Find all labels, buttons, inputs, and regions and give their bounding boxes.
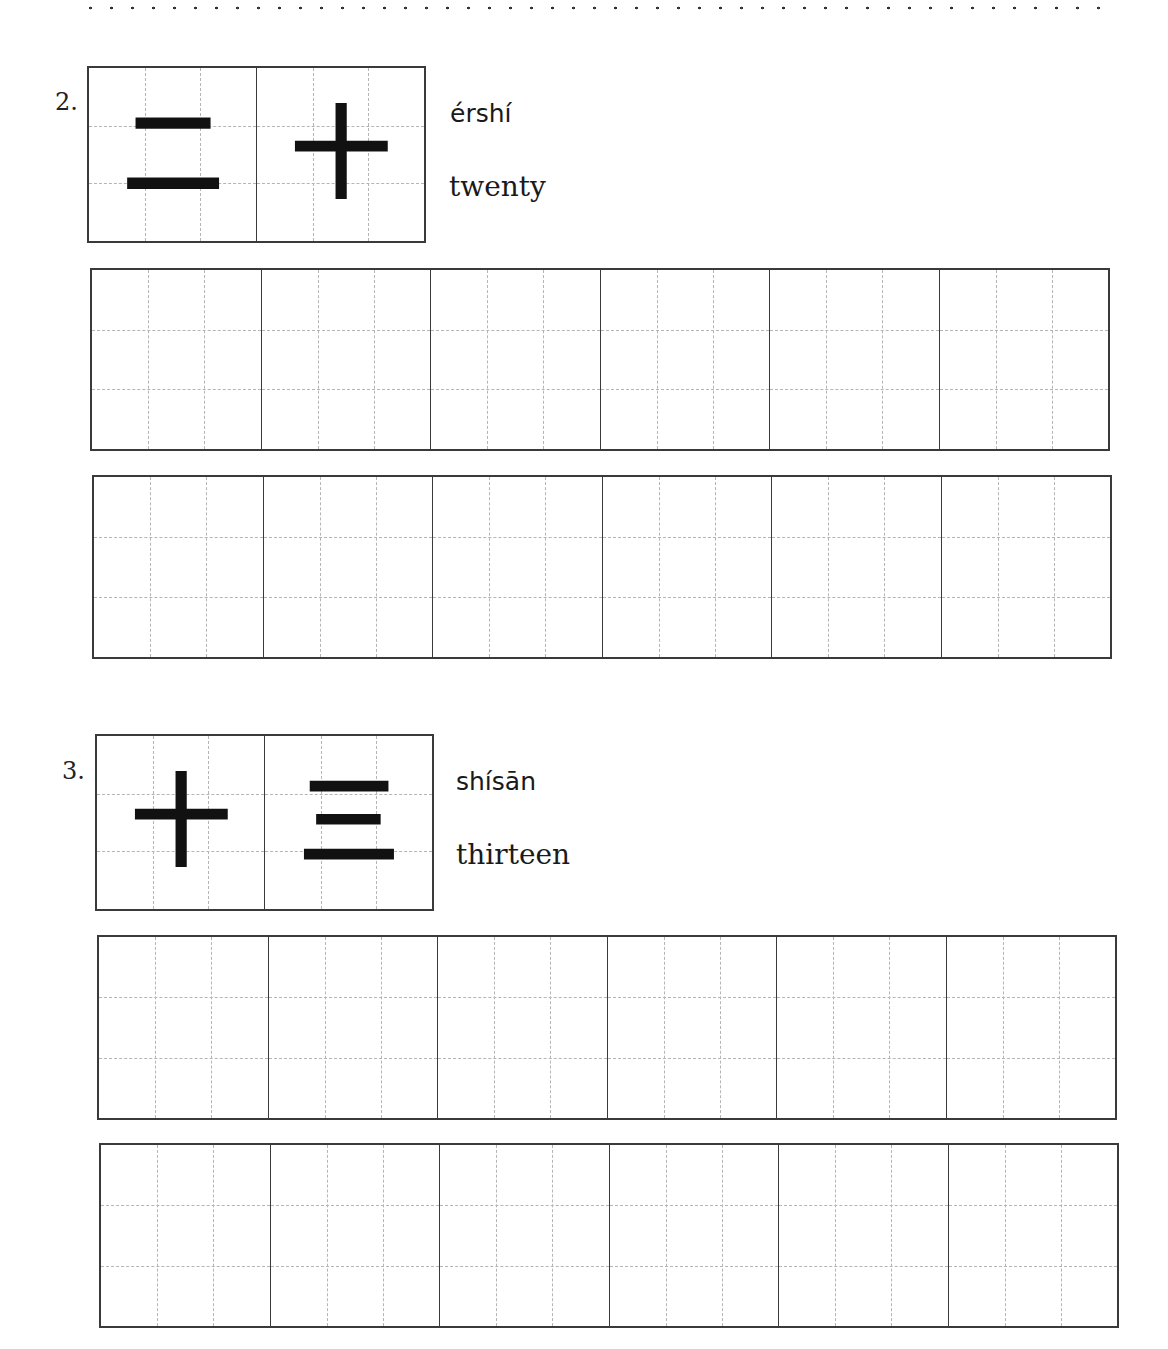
practice-cell[interactable] bbox=[270, 1145, 440, 1326]
practice-cell[interactable] bbox=[437, 937, 607, 1118]
practice-cell[interactable] bbox=[600, 270, 770, 449]
model-cell: 三 bbox=[264, 736, 432, 909]
practice-cell[interactable] bbox=[939, 270, 1109, 449]
model-character-box: 二 十 bbox=[87, 66, 426, 243]
practice-row bbox=[92, 475, 1112, 659]
model-character-box: 十 三 bbox=[95, 734, 434, 911]
practice-cell[interactable] bbox=[769, 270, 939, 449]
pinyin-label: shísān bbox=[456, 767, 536, 796]
practice-cell[interactable] bbox=[609, 1145, 779, 1326]
practice-cell[interactable] bbox=[439, 1145, 609, 1326]
practice-cell[interactable] bbox=[776, 937, 946, 1118]
model-character: 十 bbox=[257, 68, 424, 241]
practice-cell[interactable] bbox=[607, 937, 777, 1118]
english-meaning: twenty bbox=[449, 170, 546, 203]
practice-cell[interactable] bbox=[430, 270, 600, 449]
practice-cell[interactable] bbox=[946, 937, 1116, 1118]
practice-cell[interactable] bbox=[941, 477, 1111, 657]
practice-cell[interactable] bbox=[92, 270, 261, 449]
practice-cell[interactable] bbox=[99, 937, 268, 1118]
model-cell: 二 bbox=[89, 68, 256, 241]
item-number: 3. bbox=[62, 757, 85, 785]
practice-cell[interactable] bbox=[948, 1145, 1118, 1326]
practice-cell[interactable] bbox=[778, 1145, 948, 1326]
practice-row bbox=[99, 1143, 1119, 1328]
practice-cell[interactable] bbox=[268, 937, 438, 1118]
practice-cell[interactable] bbox=[432, 477, 602, 657]
practice-row bbox=[97, 935, 1117, 1120]
practice-cell[interactable] bbox=[101, 1145, 270, 1326]
model-character: 十 bbox=[97, 736, 264, 909]
practice-cell[interactable] bbox=[771, 477, 941, 657]
item-number: 2. bbox=[55, 88, 78, 116]
model-cell: 十 bbox=[97, 736, 264, 909]
model-cell: 十 bbox=[256, 68, 424, 241]
model-character: 二 bbox=[89, 68, 256, 241]
model-character: 三 bbox=[265, 736, 432, 909]
practice-cell[interactable] bbox=[263, 477, 433, 657]
practice-cell[interactable] bbox=[261, 270, 431, 449]
practice-cell[interactable] bbox=[602, 477, 772, 657]
pinyin-label: érshí bbox=[450, 99, 511, 128]
practice-cell[interactable] bbox=[94, 477, 263, 657]
english-meaning: thirteen bbox=[456, 838, 570, 871]
dotted-separator bbox=[80, 6, 1104, 10]
practice-row bbox=[90, 268, 1110, 451]
